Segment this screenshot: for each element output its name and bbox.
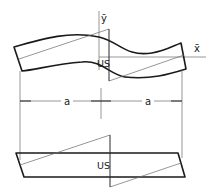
dimension-label-right: a: [145, 96, 151, 107]
dimension-label-left: a: [64, 96, 70, 107]
axes: ȳ x̄: [99, 11, 206, 70]
dimensions: a a: [20, 69, 182, 160]
upper-center-label: US: [97, 58, 110, 69]
diagram-svg: ȳ x̄ US a a: [0, 0, 213, 195]
x-axis-label: x̄: [194, 43, 200, 54]
upper-beam: US: [14, 29, 186, 81]
lower-beam: US: [16, 135, 185, 187]
y-axis-label: ȳ: [101, 13, 107, 24]
diagram-canvas: ȳ x̄ US a a: [0, 0, 213, 195]
lower-diagonal-right: [110, 163, 181, 187]
upper-diagonal-left: [19, 29, 109, 59]
lower-center-label: US: [97, 160, 110, 171]
upper-beam-outline: [14, 35, 186, 78]
